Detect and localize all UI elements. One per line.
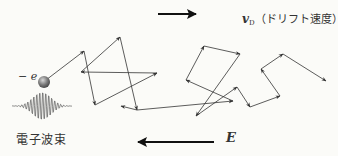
trajectory-segment: [196, 54, 240, 116]
trajectory-segment: [283, 54, 326, 81]
trajectory-segment: [261, 69, 280, 96]
electron-icon: [38, 76, 50, 88]
trajectory-segment: [120, 37, 137, 110]
trajectory-segment: [81, 72, 157, 73]
drift-velocity-label: vD（ドリフト速度）: [242, 10, 338, 27]
trajectory-segment: [46, 51, 84, 80]
trajectory-segment: [95, 73, 157, 105]
trajectory-segment: [84, 51, 95, 105]
trajectory-segment: [250, 96, 280, 107]
wave-packet-label: 電子波束: [16, 130, 66, 147]
trajectory-segment: [121, 106, 137, 110]
trajectory-segment: [204, 46, 240, 54]
electric-field-label: E: [226, 130, 236, 145]
trajectory-segment: [137, 101, 233, 110]
electron-trajectory: [46, 37, 326, 116]
wave-packet-icon: [12, 93, 72, 119]
trajectory-segment: [261, 54, 283, 69]
trajectory-segment: [81, 37, 120, 72]
trajectory-segment: [186, 46, 204, 80]
drift-velocity-description: （ドリフト速度）: [255, 13, 338, 26]
electron-charge-label: − e: [18, 70, 37, 83]
trajectory-segment: [237, 87, 250, 107]
trajectory-segment: [186, 80, 233, 101]
drift-velocity-symbol: v: [242, 12, 249, 26]
